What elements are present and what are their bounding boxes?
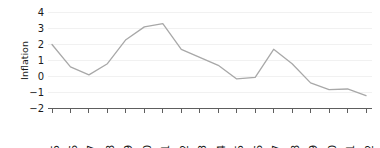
chart-canvas: 43210−1−2 198519861987198819891990199119… bbox=[0, 0, 380, 148]
x-tick-label: 1997 bbox=[271, 145, 282, 148]
x-tick-label: 2001 bbox=[345, 145, 356, 148]
y-tick-label: 0 bbox=[38, 71, 44, 82]
y-tick-label: 1 bbox=[38, 55, 44, 66]
y-tick-label: −2 bbox=[29, 103, 44, 114]
x-tick-label: 1986 bbox=[68, 145, 79, 148]
y-tick-label: 2 bbox=[38, 39, 44, 50]
y-tick-label: 4 bbox=[38, 7, 44, 18]
x-tick-label: 1985 bbox=[50, 145, 61, 148]
y-tick-label: 3 bbox=[38, 23, 44, 34]
x-tick-label: 1993 bbox=[197, 145, 208, 148]
inflation-line-chart: 43210−1−2 198519861987198819891990199119… bbox=[0, 0, 380, 148]
x-tick-label: 1999 bbox=[308, 145, 319, 148]
x-tick-label: 1991 bbox=[160, 145, 171, 148]
x-tick-label: 1994 bbox=[216, 145, 227, 148]
x-tick-label: 2000 bbox=[327, 145, 338, 148]
x-tick-label: 1995 bbox=[234, 145, 245, 148]
x-tick-label: 2002 bbox=[364, 145, 375, 148]
chart-background bbox=[0, 0, 380, 148]
y-tick-label: −1 bbox=[29, 87, 44, 98]
x-tick-label: 1989 bbox=[123, 145, 134, 148]
x-tick-label: 1998 bbox=[290, 145, 301, 148]
y-axis-title: Inflation bbox=[19, 41, 30, 80]
x-tick-label: 1987 bbox=[86, 145, 97, 148]
x-tick-label: 1992 bbox=[179, 145, 190, 148]
x-tick-label: 1996 bbox=[253, 145, 264, 148]
x-tick-label: 1988 bbox=[105, 145, 116, 148]
x-tick-label: 1990 bbox=[142, 145, 153, 148]
